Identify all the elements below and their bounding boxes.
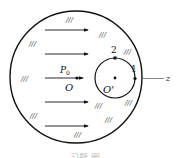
point-2 (114, 57, 117, 60)
point-1-label: 1 (131, 64, 137, 74)
hatch-mark: /// (123, 48, 132, 56)
hatch-mark: /// (65, 16, 74, 24)
cavity-center-point (114, 77, 117, 80)
hatch-mark: /// (94, 102, 103, 110)
field-arrows (45, 30, 88, 126)
hatch-mark: /// (73, 131, 82, 139)
cavity-center-label: O' (103, 84, 114, 95)
point-2-label: 2 (111, 45, 117, 55)
hatch-mark: /// (20, 75, 29, 83)
z-axis-label: z (165, 74, 171, 83)
diagram-canvas: P0 O O' 1 2 z /// /// /// /// /// /// //… (0, 0, 182, 158)
hatch-mark: /// (28, 40, 37, 48)
origin-point (75, 76, 78, 79)
point-1 (133, 77, 136, 80)
hatch-mark: /// (98, 31, 107, 39)
hatch-mark: /// (29, 112, 38, 120)
hatch-mark: /// (104, 116, 113, 124)
origin-label: O (65, 82, 73, 93)
hatch-mark: /// (124, 99, 133, 107)
figure-caption: 习题 图 (70, 153, 100, 158)
p0-label: P0 (59, 65, 70, 76)
